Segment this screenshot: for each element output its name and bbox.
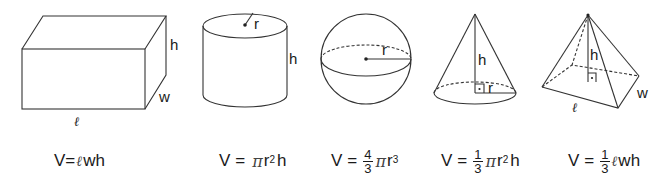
- cone-formula: V = 1 3 π r2 h: [441, 146, 520, 176]
- formula-fraction: 4 3: [363, 148, 372, 175]
- cylinder-formula: V = π r2 h: [219, 146, 287, 176]
- formula-ell: ℓ: [612, 153, 618, 170]
- formula-exponent: 3: [393, 154, 399, 165]
- formula-lhs: V: [219, 151, 230, 171]
- formula-fraction: 1 3: [600, 148, 609, 175]
- pyramid-width-label: w: [636, 84, 648, 101]
- formula-exponent: 2: [269, 154, 275, 165]
- formula-exponent: 2: [503, 154, 509, 165]
- formula-tail: h: [277, 151, 286, 171]
- cylinder-height-label: h: [289, 50, 297, 67]
- formula-lhs: V: [331, 151, 342, 171]
- fraction-denominator: 3: [364, 162, 371, 175]
- cone-shape: [434, 14, 516, 104]
- volume-formulas-diagram: h w ℓ r h r h r h w ℓ V = ℓ wh V = π r2 …: [0, 0, 662, 183]
- fraction-denominator: 3: [601, 162, 608, 175]
- pyramid-right-angle-dot: [591, 77, 593, 79]
- pyramid-apex-dot: [586, 13, 589, 16]
- formula-lhs: V: [568, 151, 579, 171]
- cone-right-angle-dot: [478, 88, 480, 90]
- cone-height-label: h: [478, 51, 486, 68]
- rectangular-prism-shape: [22, 16, 166, 109]
- prism-height-label: h: [170, 36, 178, 53]
- formula-ell: ℓ: [76, 153, 82, 170]
- formula-equals: =: [347, 151, 357, 171]
- fraction-denominator: 3: [474, 162, 481, 175]
- cylinder-center-dot: [243, 23, 247, 27]
- cylinder-radius-label: r: [254, 15, 259, 32]
- formula-equals: =: [235, 151, 245, 171]
- formula-lhs: V: [54, 151, 65, 171]
- formula-equals: =: [584, 151, 594, 171]
- prism-length-label: ℓ: [74, 114, 80, 129]
- pyramid-height-label: h: [590, 46, 598, 63]
- formula-equals: =: [65, 151, 75, 171]
- cone-radius-label: r: [488, 79, 493, 96]
- fraction-numerator: 4: [363, 148, 372, 162]
- pyramid-formula: V = 1 3 ℓ wh: [568, 146, 640, 176]
- formula-tail: wh: [618, 151, 640, 171]
- sphere-formula: V = 4 3 π r3: [331, 146, 398, 176]
- prism-width-label: w: [158, 88, 170, 105]
- pi-symbol: π: [252, 152, 263, 171]
- formula-tail: h: [510, 151, 519, 171]
- formula-lhs: V: [441, 151, 452, 171]
- pyramid-length-label: ℓ: [572, 100, 578, 115]
- fraction-numerator: 1: [600, 148, 609, 162]
- sphere-center-dot: [364, 57, 368, 61]
- cylinder-shape: [203, 13, 287, 107]
- pi-symbol: π: [486, 152, 497, 171]
- formula-fraction: 1 3: [473, 148, 482, 175]
- formula-tail: wh: [83, 151, 105, 171]
- formula-equals: =: [457, 151, 467, 171]
- pi-symbol: π: [376, 152, 387, 171]
- fraction-numerator: 1: [473, 148, 482, 162]
- prism-formula: V = ℓ wh: [54, 146, 105, 176]
- sphere-radius-label: r: [382, 41, 387, 58]
